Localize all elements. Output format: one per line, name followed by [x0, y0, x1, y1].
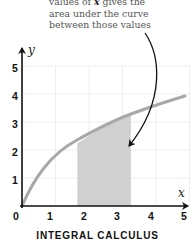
y-axis-label: y	[27, 43, 35, 57]
pointer-arrow	[129, 33, 157, 146]
figure-title: INTEGRAL CALCULUS	[0, 228, 195, 241]
x-tick-4: 4	[148, 210, 154, 222]
x-tick-0: 0	[13, 210, 19, 222]
y-tick-4: 4	[12, 90, 18, 102]
y-tick-3: 3	[12, 118, 18, 130]
y-tick-1: 1	[12, 174, 18, 186]
x-axis-label: x	[178, 186, 185, 200]
x-tick-3: 3	[114, 210, 120, 222]
x-tick-5: 5	[181, 210, 187, 222]
y-tick-5: 5	[12, 62, 18, 74]
y-tick-2: 2	[12, 146, 18, 158]
integral-chart: x y 0 1 2 3 4 5 1 2 3 4 5	[0, 0, 195, 247]
shaded-area	[77, 114, 131, 206]
x-tick-1: 1	[47, 210, 53, 222]
x-tick-2: 2	[81, 210, 87, 222]
